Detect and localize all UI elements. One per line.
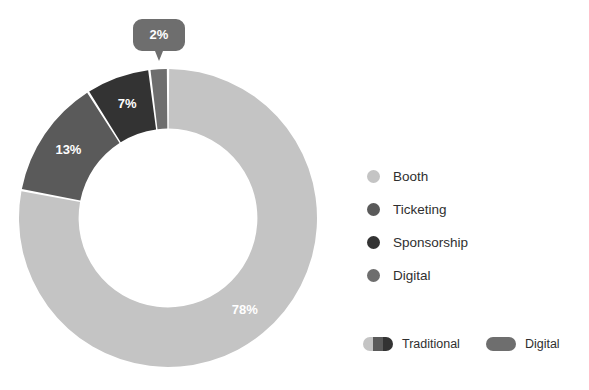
legend-label-sponsorship: Sponsorship: [393, 235, 468, 250]
pill-segment: [373, 337, 383, 351]
donut-svg: 78%13%7%: [18, 68, 318, 368]
group-legend-label-traditional: Traditional: [402, 337, 460, 351]
group-swatch-icon-traditional: [363, 337, 393, 351]
legend-item-sponsorship[interactable]: Sponsorship: [367, 226, 567, 259]
slice-value-label-ticketing: 13%: [55, 142, 81, 157]
callout-svg: 2%: [131, 17, 187, 63]
legend-item-digital[interactable]: Digital: [367, 259, 567, 292]
donut-chart: 78%13%7%: [18, 68, 318, 368]
pill-segment: [363, 337, 373, 351]
slice-value-label-booth: 78%: [232, 302, 258, 317]
chart-canvas: · · · · · · 78%13%7% 2% Booth Ticketing …: [0, 0, 589, 390]
legend-item-ticketing[interactable]: Ticketing: [367, 193, 567, 226]
legend-label-booth: Booth: [393, 169, 428, 184]
group-legend: Traditional Digital: [363, 337, 588, 351]
slice-value-label-sponsorship: 7%: [118, 96, 137, 111]
cropped-title-text: · · · · · ·: [270, 0, 320, 6]
legend-item-booth[interactable]: Booth: [367, 160, 567, 193]
legend-label-digital: Digital: [393, 268, 431, 283]
cropped-title-remnant: · · · · · ·: [0, 0, 589, 7]
legend-swatch-icon-digital: [367, 269, 380, 282]
callout-label: 2%: [150, 27, 169, 42]
legend-swatch-icon-sponsorship: [367, 236, 380, 249]
group-swatch-icon-digital: [486, 337, 516, 351]
chart-legend: Booth Ticketing Sponsorship Digital: [367, 160, 567, 292]
group-legend-label-digital: Digital: [525, 337, 560, 351]
pill-segment: [383, 337, 393, 351]
group-legend-item-digital[interactable]: Digital: [486, 337, 560, 351]
donut-slices: [19, 69, 317, 367]
legend-label-ticketing: Ticketing: [393, 202, 447, 217]
callout-bubble-digital: 2%: [131, 17, 187, 63]
pill-segment: [486, 337, 516, 351]
legend-swatch-icon-ticketing: [367, 203, 380, 216]
legend-swatch-icon-booth: [367, 170, 380, 183]
group-legend-item-traditional[interactable]: Traditional: [363, 337, 460, 351]
